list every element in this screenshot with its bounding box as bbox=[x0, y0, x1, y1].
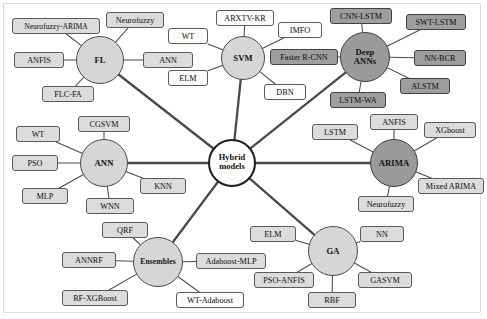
node-alstm[interactable]: ALSTM bbox=[400, 78, 450, 94]
hub-label: Ensembles bbox=[140, 258, 176, 266]
node-elm-ga[interactable]: ELM bbox=[250, 226, 296, 242]
node-swt-lstm[interactable]: SWT-LSTM bbox=[406, 14, 466, 30]
node-label: DBN bbox=[276, 88, 293, 97]
node-faster-rcnn[interactable]: Faster R-CNN bbox=[270, 49, 338, 65]
node-anfis-arima[interactable]: ANFIS bbox=[370, 114, 418, 130]
node-wt-svm[interactable]: WT bbox=[168, 28, 208, 44]
hub-hybrid-models[interactable]: Hybridmodels bbox=[208, 139, 256, 187]
edge-svm-imfo bbox=[263, 38, 284, 48]
edge-deep_anns-cnn-lstm bbox=[362, 24, 363, 32]
node-arxtv-kr[interactable]: ARXTV-KR bbox=[216, 10, 274, 26]
spoke-center-svm bbox=[235, 80, 241, 139]
edge-ann-mlp bbox=[59, 175, 83, 188]
node-label: ELM bbox=[179, 74, 196, 83]
node-label: ANFIS bbox=[27, 56, 51, 65]
hub-ann[interactable]: ANN bbox=[80, 139, 128, 187]
node-label: WNN bbox=[100, 202, 120, 211]
edge-svm-arxtv-kr bbox=[244, 26, 245, 36]
hub-ensembles[interactable]: Ensembles bbox=[133, 237, 183, 287]
node-ann-fl[interactable]: ANN bbox=[143, 52, 193, 68]
node-label: Neurofuzzy-ARIMA bbox=[24, 22, 88, 31]
node-gasvm[interactable]: GASVM bbox=[358, 272, 412, 288]
node-label: CGSVM bbox=[89, 120, 118, 129]
node-dbn[interactable]: DBN bbox=[264, 84, 306, 100]
node-neurofuzzy-arima2[interactable]: Neurofuzzy bbox=[358, 196, 414, 212]
node-label: MLP bbox=[37, 192, 54, 201]
node-imfo[interactable]: IMFO bbox=[278, 22, 322, 38]
node-label: LSTM bbox=[324, 128, 346, 137]
node-mlp[interactable]: MLP bbox=[22, 188, 68, 204]
edge-ann-knn bbox=[126, 172, 142, 178]
hub-label: GA bbox=[326, 247, 339, 256]
node-label: IMFO bbox=[290, 26, 310, 35]
node-label: LSTM-WA bbox=[339, 96, 376, 105]
edge-ensembles-qrf bbox=[133, 238, 140, 245]
hub-label-second-line: models bbox=[219, 162, 245, 171]
edge-ga-pso-anfis bbox=[298, 264, 312, 272]
node-cnn-lstm[interactable]: CNN-LSTM bbox=[330, 8, 392, 24]
hub-svm[interactable]: SVM bbox=[221, 36, 265, 80]
hub-ga[interactable]: GA bbox=[308, 226, 358, 276]
hub-deep_anns[interactable]: DeepANNs bbox=[340, 32, 390, 82]
node-label: ANFIS bbox=[382, 118, 406, 127]
edge-arima-neurofuzzy-arima2 bbox=[388, 187, 390, 196]
node-wt-ann[interactable]: WT bbox=[16, 126, 60, 142]
hub-arima[interactable]: ARIMA bbox=[370, 139, 418, 187]
node-neurofuzzy-fl[interactable]: Neurofuzzy bbox=[106, 12, 164, 28]
node-label: NN-BCR bbox=[425, 54, 456, 63]
node-neurofuzzy-arima[interactable]: Neurofuzzy-ARIMA bbox=[12, 18, 100, 34]
edge-ga-gasvm bbox=[355, 263, 371, 272]
edge-ensembles-rf-xgboost bbox=[109, 274, 136, 290]
edge-ga-nn-ga bbox=[357, 242, 360, 243]
hub-label-second-line: ANNs bbox=[354, 56, 376, 66]
edge-deep_anns-lstm-wa bbox=[359, 82, 361, 92]
node-label: WT-Adaboost bbox=[187, 296, 233, 305]
node-cgsvm[interactable]: CGSVM bbox=[78, 116, 130, 132]
edge-ensembles-wt-adaboost bbox=[178, 277, 199, 292]
node-adaboost-mlp[interactable]: Adaboost-MLP bbox=[196, 253, 266, 269]
edge-arima-xgboost bbox=[415, 138, 437, 151]
node-label: QRF bbox=[117, 226, 133, 235]
hybrid-models-diagram: Neurofuzzy-ARIMANeurofuzzyANFISANNFLC-FA… bbox=[0, 0, 487, 319]
hub-label-wrap: DeepANNs bbox=[354, 48, 376, 66]
node-mixed-arima[interactable]: Mixed ARIMA bbox=[418, 178, 484, 194]
node-label: ANNRF bbox=[75, 256, 103, 265]
hub-label: SVM bbox=[233, 54, 252, 63]
node-label: ANN bbox=[159, 56, 177, 65]
edge-ga-elm-ga bbox=[296, 241, 309, 245]
node-pso[interactable]: PSO bbox=[12, 155, 58, 171]
node-label: RF-XGBoost bbox=[73, 294, 117, 303]
node-flc-fa[interactable]: FLC-FA bbox=[42, 86, 94, 102]
node-label: CNN-LSTM bbox=[340, 12, 382, 21]
hub-label: ARIMA bbox=[379, 159, 410, 168]
node-label: Neurofuzzy bbox=[367, 200, 406, 209]
node-xgboost[interactable]: XGboost bbox=[424, 122, 476, 138]
node-label: FLC-FA bbox=[54, 90, 82, 99]
node-label: PSO-ANFIS bbox=[263, 276, 304, 285]
node-label: Adaboost-MLP bbox=[206, 257, 257, 266]
node-label: PSO bbox=[27, 159, 42, 168]
node-lstm-arima[interactable]: LSTM bbox=[312, 124, 358, 140]
edge-ann-wnn bbox=[107, 187, 109, 198]
node-annrf[interactable]: ANNRF bbox=[62, 252, 116, 268]
node-nn-ga[interactable]: NN bbox=[360, 226, 404, 242]
node-label: Neurofuzzy bbox=[116, 16, 155, 25]
node-qrf[interactable]: QRF bbox=[102, 222, 148, 238]
node-label: GASVM bbox=[370, 276, 400, 285]
node-anfis-fl[interactable]: ANFIS bbox=[14, 52, 64, 68]
node-label: WT bbox=[182, 32, 195, 41]
node-label: RBF bbox=[324, 296, 339, 305]
node-wnn[interactable]: WNN bbox=[86, 198, 134, 214]
node-elm-svm[interactable]: ELM bbox=[168, 70, 208, 86]
hub-fl[interactable]: FL bbox=[76, 36, 124, 84]
node-lstm-wa[interactable]: LSTM-WA bbox=[330, 92, 386, 108]
node-pso-anfis[interactable]: PSO-ANFIS bbox=[254, 272, 314, 288]
node-rbf[interactable]: RBF bbox=[308, 292, 356, 308]
edge-ann-wt-ann bbox=[56, 142, 82, 153]
node-knn[interactable]: KNN bbox=[140, 178, 186, 194]
edge-svm-dbn bbox=[260, 72, 275, 84]
node-label: NN bbox=[376, 230, 388, 239]
node-wt-adaboost[interactable]: WT-Adaboost bbox=[176, 292, 244, 308]
node-nn-bcr[interactable]: NN-BCR bbox=[414, 50, 466, 66]
node-rf-xgboost[interactable]: RF-XGBoost bbox=[62, 290, 128, 306]
